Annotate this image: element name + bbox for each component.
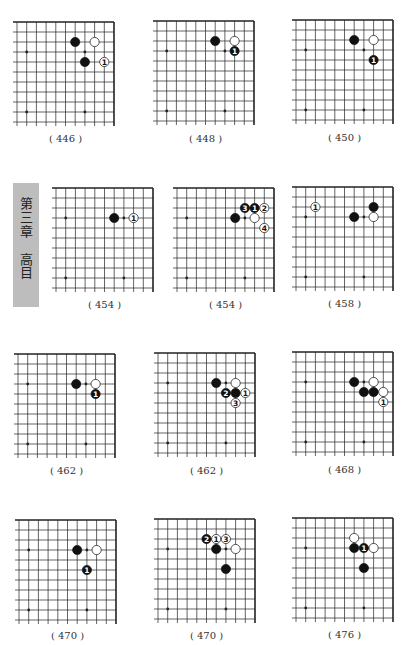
star-point xyxy=(304,547,307,550)
star-point xyxy=(304,607,307,610)
black-stone xyxy=(350,543,359,552)
black-stone xyxy=(359,563,368,572)
diagram-caption: ( 476 ) xyxy=(315,629,375,640)
star-point xyxy=(363,607,366,610)
go-board: 1 xyxy=(0,0,407,645)
black-stone: 1 xyxy=(359,543,368,552)
move-number: 1 xyxy=(361,544,366,553)
white-stone xyxy=(350,533,359,542)
white-stone xyxy=(369,543,378,552)
